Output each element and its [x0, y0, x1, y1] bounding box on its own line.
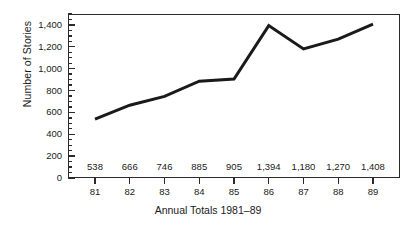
- data-value-label: 1,270: [326, 161, 350, 172]
- x-axis-tick-label: 88: [333, 186, 344, 197]
- data-value-label: 666: [122, 161, 138, 172]
- x-axis-tick: [164, 178, 165, 184]
- data-value-label: 905: [226, 161, 242, 172]
- x-axis-tick: [129, 178, 130, 184]
- x-axis-tick-label: 83: [159, 186, 170, 197]
- x-axis-tick-label: 85: [229, 186, 240, 197]
- data-value-label: 1,180: [292, 161, 316, 172]
- x-axis-tick-label: 86: [263, 186, 274, 197]
- x-axis-tick: [338, 178, 339, 184]
- x-axis-tick: [268, 178, 269, 184]
- data-value-labels: 5386667468859051,3941,1801,2701,408: [68, 14, 400, 178]
- y-axis-tick-label: 200: [2, 151, 62, 161]
- data-value-label: 1,408: [361, 161, 385, 172]
- y-axis-tick-label: 1,000: [2, 64, 62, 74]
- y-axis-tick-label: 0: [2, 173, 62, 183]
- y-axis-tick-labels: 02004006008001,0001,2001,400: [0, 0, 66, 225]
- y-axis-tick-label: 1,400: [2, 20, 62, 30]
- chart-figure: Number of Stories 02004006008001,0001,20…: [0, 0, 416, 225]
- x-axis-tick-label: 89: [368, 186, 379, 197]
- x-axis-title: Annual Totals 1981–89: [0, 204, 416, 216]
- x-axis-tick: [199, 178, 200, 184]
- x-axis-tick: [303, 178, 304, 184]
- x-axis-tick-labels: 818283848586878889: [68, 186, 400, 202]
- x-axis-ticks: [68, 178, 400, 186]
- x-axis-tick-label: 81: [90, 186, 101, 197]
- x-axis-tick-label: 87: [298, 186, 309, 197]
- data-value-label: 746: [157, 161, 173, 172]
- data-value-label: 1,394: [257, 161, 281, 172]
- data-value-label: 885: [191, 161, 207, 172]
- x-axis-tick-label: 84: [194, 186, 205, 197]
- x-axis-tick: [372, 178, 373, 184]
- x-axis-tick: [94, 178, 95, 184]
- y-axis-tick-label: 400: [2, 129, 62, 139]
- y-axis-tick-label: 1,200: [2, 42, 62, 52]
- y-axis-tick-label: 800: [2, 86, 62, 96]
- x-axis-tick: [233, 178, 234, 184]
- x-axis-tick-label: 82: [124, 186, 135, 197]
- data-value-label: 538: [87, 161, 103, 172]
- y-axis-tick-label: 600: [2, 107, 62, 117]
